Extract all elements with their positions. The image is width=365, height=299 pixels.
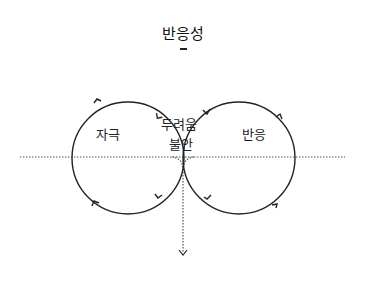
set-label-left: 자극: [96, 124, 120, 143]
set-label-right: 반응: [242, 124, 266, 143]
arrow-icon: [94, 99, 101, 103]
arrow-icon: [203, 109, 210, 114]
right-circle: [183, 102, 295, 214]
intersection-label-line2: 불안: [169, 134, 193, 153]
arrow-icon: [272, 204, 277, 208]
arrow-icon: [155, 194, 162, 198]
arrow-icon: [204, 195, 211, 199]
intersection-label-line1: 두려움: [161, 114, 197, 133]
